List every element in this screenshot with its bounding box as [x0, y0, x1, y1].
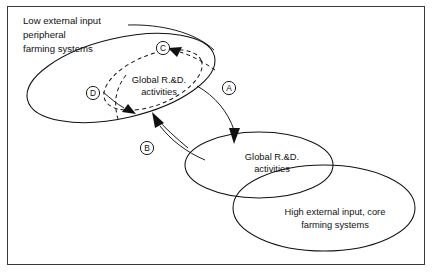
label-global-rnd-upper-line2: activities	[141, 87, 177, 97]
leader-line-low-input-label	[128, 25, 214, 50]
arrow-d-head	[122, 104, 136, 114]
label-global-rnd-lower-line2: activities	[254, 164, 290, 174]
label-global-rnd-upper-line1: Global R.&D.	[132, 75, 186, 85]
arrow-c-head	[168, 47, 182, 57]
arrow-d-path	[103, 92, 124, 108]
dashed-tail-lower-left	[116, 75, 126, 119]
arrow-c-path	[180, 52, 215, 70]
arrow-a-head	[229, 128, 240, 144]
connector-middle-to-upper	[156, 118, 188, 148]
marker-d-label: D	[90, 88, 96, 98]
marker-b: B	[140, 141, 153, 154]
label-low-external-input-line2: peripheral	[23, 29, 66, 40]
marker-c-label: C	[160, 43, 166, 53]
label-high-external-input-line2: farming systems	[301, 220, 369, 230]
marker-c: C	[156, 41, 169, 54]
marker-d: D	[86, 86, 99, 99]
label-low-external-input-line1: Low external input	[23, 15, 101, 26]
label-global-rnd-lower-line1: Global R.&D.	[245, 152, 299, 162]
marker-b-label: B	[144, 143, 150, 153]
marker-a: A	[222, 81, 235, 94]
figure-canvas: A B C D Low external input peripheral fa…	[0, 0, 433, 273]
label-low-external-input-line3: farming systems	[23, 43, 93, 54]
label-high-external-input-line1: High external input, core	[285, 207, 386, 217]
diagram-svg: A B C D Low external input peripheral fa…	[0, 0, 433, 273]
marker-a-label: A	[226, 83, 232, 93]
